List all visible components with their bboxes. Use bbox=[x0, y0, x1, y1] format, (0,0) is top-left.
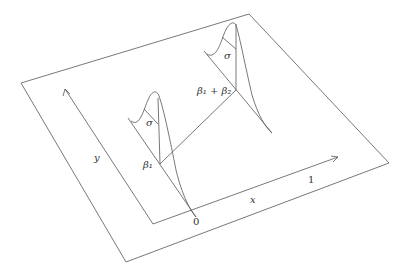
sigma-left-label: σ bbox=[146, 117, 154, 128]
sigma-right-label: σ bbox=[224, 50, 232, 61]
left-bell-curve bbox=[131, 92, 196, 217]
plane bbox=[21, 14, 389, 262]
left-mean-line bbox=[158, 98, 160, 164]
right-bell-curve bbox=[207, 23, 272, 133]
x-axis bbox=[153, 157, 338, 224]
x-tick-label: 1 bbox=[308, 174, 314, 185]
regression-line bbox=[160, 90, 236, 164]
beta1-plus-beta2-label: β₁ + β₂ bbox=[196, 85, 231, 96]
y-axis-label: y bbox=[93, 152, 100, 163]
origin-label: 0 bbox=[193, 216, 199, 227]
left-base-line bbox=[128, 118, 196, 217]
regression-diagram: y x 0 1 β₁ β₁ + β₂ σ σ bbox=[0, 0, 408, 278]
x-axis-label: x bbox=[250, 194, 256, 205]
y-axis bbox=[65, 89, 153, 224]
beta1-label: β₁ bbox=[142, 159, 153, 170]
right-sigma-line bbox=[222, 37, 236, 49]
